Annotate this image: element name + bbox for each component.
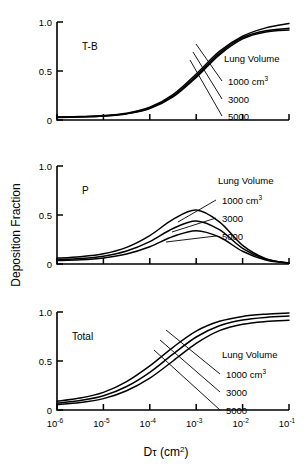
- legend-leader-line: [154, 350, 220, 410]
- x-axis-title-units-open: (cm: [157, 445, 180, 459]
- legend-item-0-0: 1000 cm3: [228, 75, 268, 87]
- x-tick-exponent: -1: [289, 417, 295, 424]
- x-tick-exponent: -3: [197, 417, 203, 424]
- x-tick-label-1: 10-5: [93, 417, 110, 430]
- x-tick-label-2: 10-4: [140, 417, 157, 430]
- chart-canvas: 1.00.50T-BLung Volume1000 cm3300050001.0…: [0, 0, 304, 468]
- legend-item-superscript: 3: [262, 368, 266, 375]
- panel-annotation-t-b: T-B: [82, 41, 98, 52]
- legend-item-0-1: 3000: [228, 94, 249, 105]
- legend-item-0-2: 5000: [228, 111, 249, 122]
- x-tick-exponent: -5: [104, 417, 110, 424]
- y-tick-label-0: 1.0: [39, 307, 52, 318]
- legend-title-0: Lung Volume: [224, 53, 279, 64]
- x-axis-title-d: D: [144, 445, 153, 459]
- x-tick-exponent: -4: [150, 417, 156, 424]
- legend-item-2-0: 1000 cm3: [226, 368, 266, 380]
- y-tick-label-1: 0.5: [39, 66, 52, 77]
- panel-annotation-total: Total: [72, 331, 93, 342]
- y-tick-label-1: 0.5: [39, 356, 52, 367]
- x-tick-label-5: 10-1: [279, 417, 296, 430]
- legend-item-1-0: 1000 cm3: [222, 194, 262, 206]
- y-tick-label-2: 0: [47, 115, 52, 126]
- legend-leader-line: [178, 200, 216, 222]
- curve-p-series-2: [57, 231, 289, 264]
- x-tick-label-3: 10-3: [186, 417, 203, 430]
- legend-item-1-1: 3000: [222, 213, 243, 224]
- x-tick-exponent: -6: [57, 417, 63, 424]
- y-axis-title: Deposition Fraction: [9, 183, 23, 286]
- legend-item-superscript: 3: [258, 194, 262, 201]
- x-axis-title: Dτ (cm2): [144, 445, 189, 460]
- legend-item-2-1: 3000: [226, 387, 247, 398]
- panel-p: 1.00.50PLung Volume1000 cm330005000: [39, 161, 289, 270]
- x-tick-exponent: -2: [243, 417, 249, 424]
- legend-item-1-2: 5000: [222, 231, 243, 242]
- x-tick-label-4: 10-2: [232, 417, 249, 430]
- y-tick-label-0: 1.0: [39, 161, 52, 172]
- legend-title-2: Lung Volume: [222, 349, 277, 360]
- y-tick-label-2: 0: [47, 405, 52, 416]
- curve-t-b-series-0: [57, 23, 289, 117]
- panel-axis-frame: [57, 22, 289, 120]
- y-tick-label-0: 1.0: [39, 17, 52, 28]
- x-axis-title-units-close: ): [184, 445, 188, 459]
- panel-annotation-p: P: [82, 185, 89, 196]
- x-tick-label-0: 10-6: [47, 417, 64, 430]
- legend-title-1: Lung Volume: [218, 175, 273, 186]
- y-tick-label-2: 0: [47, 259, 52, 270]
- legend-item-superscript: 3: [264, 75, 268, 82]
- panel-total: 1.00.50TotalLung Volume1000 cm330005000: [39, 307, 289, 417]
- y-tick-label-1: 0.5: [39, 210, 52, 221]
- deposition-fraction-figure: 1.00.50T-BLung Volume1000 cm3300050001.0…: [0, 0, 304, 468]
- panel-t-b: 1.00.50T-BLung Volume1000 cm330005000: [39, 17, 289, 126]
- legend-item-2-2: 5000: [226, 405, 247, 416]
